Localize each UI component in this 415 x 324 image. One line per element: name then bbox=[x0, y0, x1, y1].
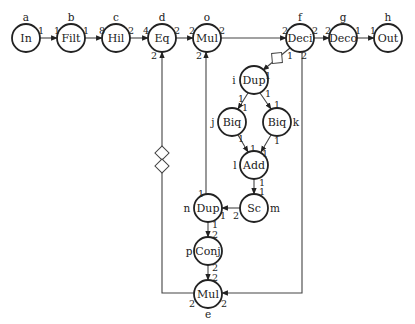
node-label: Sc bbox=[247, 202, 261, 215]
port-rate: 2 bbox=[301, 50, 307, 61]
port-rate: 1 bbox=[265, 88, 271, 99]
node-id: a bbox=[23, 11, 29, 23]
port-rate: 2 bbox=[312, 25, 318, 36]
node-id: c bbox=[113, 11, 119, 23]
nodes-layer: InaFiltbHilcEqdMuloDecifDecogOuthDupiBiq… bbox=[12, 11, 402, 320]
port-rate: 2 bbox=[151, 50, 157, 61]
node-id: e bbox=[205, 308, 211, 320]
node-label: Add bbox=[242, 159, 265, 172]
node-h[interactable]: Outh bbox=[374, 11, 402, 52]
node-i[interactable]: Dupi bbox=[232, 66, 268, 94]
node-d[interactable]: Eqd bbox=[148, 11, 176, 52]
port-rate: 2 bbox=[233, 210, 239, 221]
port-rate: 1 bbox=[370, 25, 376, 36]
node-label: Eq bbox=[154, 32, 169, 45]
port-rate: 1 bbox=[274, 135, 280, 146]
node-label: In bbox=[20, 32, 31, 45]
node-label: Dup bbox=[243, 74, 266, 87]
port-rate: 2 bbox=[219, 25, 225, 36]
port-rate: 2 bbox=[189, 25, 195, 36]
port-rate: 2 bbox=[196, 50, 202, 61]
node-id: g bbox=[340, 11, 347, 23]
port-rate: 1 bbox=[220, 210, 226, 221]
node-label: Conj bbox=[195, 245, 221, 258]
delay-diamond-icon-e-d-2 bbox=[155, 159, 169, 173]
node-label: Biq bbox=[223, 116, 242, 129]
node-id: p bbox=[186, 245, 193, 257]
port-rate: 1 bbox=[38, 25, 44, 36]
node-c[interactable]: Hilc bbox=[102, 11, 130, 52]
port-rate: 1 bbox=[238, 133, 244, 144]
port-rate: 1 bbox=[83, 25, 89, 36]
port-rate: 8 bbox=[99, 25, 105, 36]
node-id: i bbox=[232, 74, 236, 86]
port-rate: 2 bbox=[212, 272, 218, 283]
node-id: l bbox=[233, 159, 237, 171]
port-rate: 1 bbox=[198, 188, 204, 199]
port-rate: 1 bbox=[262, 148, 268, 159]
port-rate: 2 bbox=[282, 25, 288, 36]
port-rate: 1 bbox=[54, 25, 60, 36]
node-label: Out bbox=[378, 32, 399, 45]
port-rate: 2 bbox=[221, 298, 227, 309]
node-label: Dup bbox=[197, 202, 220, 215]
node-id: o bbox=[204, 11, 210, 23]
port-rate: 1 bbox=[259, 186, 265, 197]
node-id: j bbox=[209, 116, 214, 128]
node-o[interactable]: Mulo bbox=[193, 11, 221, 52]
node-g[interactable]: Decog bbox=[329, 11, 357, 52]
node-label: Biq bbox=[268, 116, 287, 129]
node-id: d bbox=[159, 11, 166, 23]
port-rate: 2 bbox=[174, 25, 180, 36]
port-rate: 2 bbox=[189, 298, 195, 309]
delay-diamond-icon-e-d-1 bbox=[155, 146, 169, 160]
port-rate: 1 bbox=[265, 70, 271, 81]
node-id: n bbox=[184, 202, 191, 214]
node-a[interactable]: Ina bbox=[12, 11, 40, 52]
node-id: h bbox=[385, 11, 392, 23]
port-rate: 1 bbox=[287, 50, 293, 61]
port-rate: 2 bbox=[212, 229, 218, 240]
delay-diamond-icon-f-i bbox=[272, 53, 283, 64]
node-label: Hil bbox=[108, 32, 125, 45]
port-rate: 1 bbox=[274, 99, 280, 110]
node-e[interactable]: Mule bbox=[194, 280, 222, 320]
port-rate: 2 bbox=[325, 25, 331, 36]
graph-canvas: InaFiltbHilcEqdMuloDecifDecogOuthDupiBiq… bbox=[0, 0, 415, 324]
port-rates-layer: 11182422222211221211111111111112122222 bbox=[38, 25, 376, 309]
node-m[interactable]: Scm bbox=[240, 194, 280, 222]
port-rate: 2 bbox=[128, 25, 134, 36]
node-id: f bbox=[298, 11, 303, 23]
node-b[interactable]: Filtb bbox=[57, 11, 85, 52]
node-label: Filt bbox=[61, 32, 81, 45]
node-f[interactable]: Decif bbox=[286, 11, 314, 52]
port-rate: 1 bbox=[250, 143, 256, 154]
node-k[interactable]: Biqk bbox=[263, 108, 300, 136]
node-id: b bbox=[68, 11, 75, 23]
port-rate: 1 bbox=[242, 102, 248, 113]
port-rate: 1 bbox=[355, 25, 361, 36]
port-rate: 4 bbox=[143, 25, 149, 36]
node-label: Deci bbox=[287, 32, 312, 45]
node-label: Mul bbox=[196, 32, 218, 45]
node-label: Deco bbox=[329, 32, 357, 45]
node-id: k bbox=[293, 116, 300, 128]
dataflow-graph: InaFiltbHilcEqdMuloDecifDecogOuthDupiBiq… bbox=[0, 0, 415, 324]
node-id: m bbox=[270, 202, 280, 214]
node-label: Mul bbox=[197, 288, 219, 301]
